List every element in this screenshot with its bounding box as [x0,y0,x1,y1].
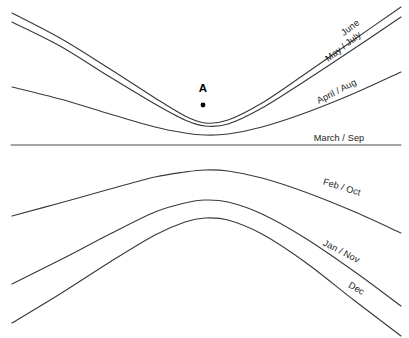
curve-label-jan-nov: Jan / Nov [321,238,361,265]
curve-label-dec: Dec [347,280,367,297]
curve-june [12,7,401,123]
curve-dec [12,218,401,336]
point-marker-group: A [199,82,207,107]
curve-label-feb-oct: Feb / Oct [322,177,362,198]
point-a-dot [201,103,206,108]
curve-feb-oct [12,170,401,233]
point-a-label: A [199,82,207,94]
sun-path-diagram: JuneMay / JulyApril / AugMarch / SepFeb … [0,0,409,338]
curves-group [11,7,401,336]
diagram-canvas: JuneMay / JulyApril / AugMarch / SepFeb … [0,0,409,338]
curve-label-march-sep: March / Sep [314,133,365,143]
curve-labels-group: JuneMay / JulyApril / AugMarch / SepFeb … [314,17,367,297]
